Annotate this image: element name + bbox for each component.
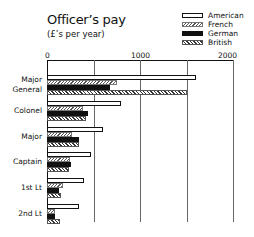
category-label: 1st Lt bbox=[21, 183, 42, 193]
legend-label: American bbox=[208, 11, 244, 20]
category-label: Colonel bbox=[14, 106, 42, 116]
legend-item-american: American bbox=[182, 13, 252, 19]
x-tick-0: 0 bbox=[45, 51, 50, 60]
legend-swatch-german bbox=[182, 31, 203, 36]
chart-title: Officer’s pay bbox=[47, 12, 126, 27]
legend-label: French bbox=[208, 20, 233, 29]
x-tick-2000: 2000 bbox=[218, 51, 237, 60]
legend-label: German bbox=[208, 29, 238, 38]
category-label: 2nd Lt bbox=[18, 209, 42, 219]
bar-british-0 bbox=[47, 90, 187, 95]
bar-british-3 bbox=[47, 167, 69, 172]
chart-subtitle: (£’s per year) bbox=[47, 29, 105, 39]
legend-item-german: German bbox=[182, 31, 252, 37]
gridline-1000 bbox=[140, 60, 141, 222]
bar-british-1 bbox=[47, 116, 86, 121]
bar-british-4 bbox=[47, 193, 61, 198]
bar-british-2 bbox=[47, 142, 79, 147]
category-label: Major bbox=[21, 132, 42, 142]
legend-swatch-british bbox=[182, 40, 203, 45]
gridline-2000 bbox=[233, 60, 234, 222]
legend-item-british: British bbox=[182, 40, 252, 46]
legend-swatch-french bbox=[182, 22, 203, 27]
bar-british-5 bbox=[47, 219, 60, 224]
category-label: MajorGeneral bbox=[12, 75, 42, 95]
gridline-1500 bbox=[187, 60, 188, 222]
x-tick-1000: 1000 bbox=[131, 51, 150, 60]
legend-label: British bbox=[208, 38, 232, 47]
legend-swatch-american bbox=[182, 13, 203, 18]
category-label: Captain bbox=[13, 157, 42, 167]
legend-item-french: French bbox=[182, 22, 252, 28]
